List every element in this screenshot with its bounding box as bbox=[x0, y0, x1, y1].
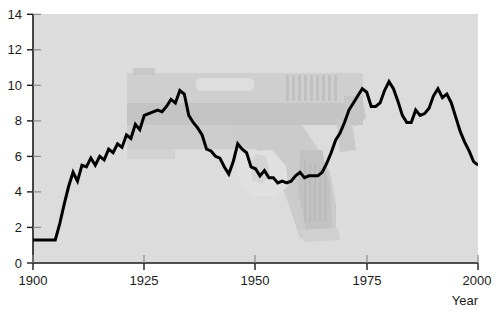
y-tick-label-14: 14 bbox=[8, 7, 22, 22]
y-tick-label-4: 4 bbox=[15, 184, 22, 199]
x-tick-label-1950: 1950 bbox=[241, 273, 270, 288]
y-tick-label-0: 0 bbox=[15, 256, 22, 271]
y-tick-label-2: 2 bbox=[15, 220, 22, 235]
y-tick-label-10: 10 bbox=[8, 78, 22, 93]
line-chart: 0 2 4 6 8 10 12 14 1900 1925 1950 1975 2… bbox=[0, 0, 499, 312]
chart-container: 0 2 4 6 8 10 12 14 1900 1925 1950 1975 2… bbox=[0, 0, 499, 312]
x-axis-title: Year bbox=[452, 293, 479, 308]
x-tick-label-1925: 1925 bbox=[130, 273, 159, 288]
y-tick-label-8: 8 bbox=[15, 113, 22, 128]
y-tick-label-12: 12 bbox=[8, 42, 22, 57]
x-tick-label-2000: 2000 bbox=[463, 273, 492, 288]
y-tick-label-6: 6 bbox=[15, 149, 22, 164]
x-tick-label-1900: 1900 bbox=[19, 273, 48, 288]
x-tick-label-1975: 1975 bbox=[353, 273, 382, 288]
